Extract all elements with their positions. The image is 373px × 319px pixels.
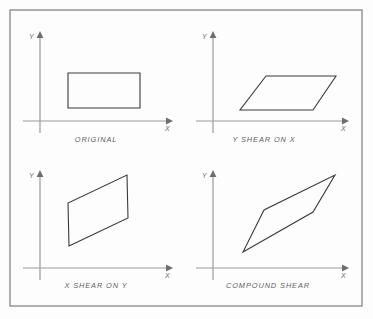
y-axis-label: Y: [29, 172, 35, 179]
y-axis-label: Y: [202, 172, 208, 179]
x-axis-label: X: [164, 272, 170, 279]
x-axis-label: X: [340, 125, 346, 132]
x-axis-arrow-icon: [342, 118, 349, 125]
x-axis-label: X: [164, 125, 170, 132]
panel-original: Y X ORIGINAL: [23, 31, 173, 144]
y-axis-label: Y: [202, 33, 208, 40]
y-axis-arrow-icon: [210, 170, 217, 177]
x-axis-arrow-icon: [166, 118, 173, 125]
shape-x-shear-parallelogram: [68, 175, 128, 246]
panel-compound-shear: Y X COMPOUND SHEAR: [196, 170, 349, 290]
y-axis-label: Y: [29, 33, 35, 40]
axes-y-shear-on-x: Y X: [196, 31, 349, 133]
shear-transformations-figure: Y X ORIGINAL Y X Y SHEAR ON X: [0, 0, 373, 319]
shape-original-rectangle: [68, 73, 140, 108]
axes-x-shear-on-y: Y X: [23, 170, 173, 280]
axes-original: Y X: [23, 31, 173, 133]
y-axis-arrow-icon: [37, 31, 44, 38]
shape-compound-shear-parallelogram: [243, 175, 335, 252]
panel-y-shear-on-x: Y X Y SHEAR ON X: [196, 31, 349, 144]
shape-y-shear-parallelogram: [240, 76, 336, 110]
caption-compound-shear: COMPOUND SHEAR: [226, 281, 310, 290]
caption-y-shear-on-x: Y SHEAR ON X: [232, 135, 295, 144]
caption-x-shear-on-y: X SHEAR ON Y: [63, 281, 127, 290]
x-axis-label: X: [340, 272, 346, 279]
panel-x-shear-on-y: Y X X SHEAR ON Y: [23, 170, 173, 290]
x-axis-arrow-icon: [342, 265, 349, 272]
caption-original: ORIGINAL: [75, 135, 118, 144]
y-axis-arrow-icon: [37, 170, 44, 177]
figure-canvas: Y X ORIGINAL Y X Y SHEAR ON X: [0, 0, 373, 319]
figure-border: [10, 10, 362, 306]
x-axis-arrow-icon: [166, 265, 173, 272]
axes-compound-shear: Y X: [196, 170, 349, 280]
y-axis-arrow-icon: [210, 31, 217, 38]
